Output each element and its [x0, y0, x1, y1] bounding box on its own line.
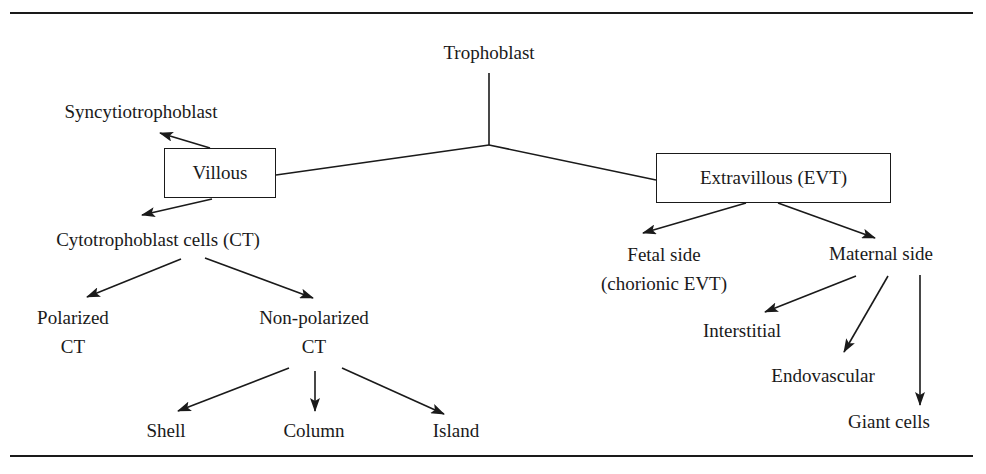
node-villous-box: Villous: [164, 148, 276, 198]
node-extravillous-label: Extravillous (EVT): [700, 167, 847, 189]
root-to-extravillous-line: [489, 145, 656, 180]
arrow-nonpolarized-to-island: [342, 368, 444, 414]
node-giant-cells: Giant cells: [848, 409, 930, 434]
node-interstitial: Interstitial: [703, 318, 781, 343]
node-fetal-line2: (chorionic EVT): [601, 269, 727, 298]
arrow-villous-to-syncytio: [160, 133, 210, 148]
node-syncytiotrophoblast: Syncytiotrophoblast: [64, 99, 217, 124]
node-endovascular: Endovascular: [771, 363, 874, 388]
node-maternal-side: Maternal side: [829, 241, 933, 266]
root-to-villous-line: [276, 145, 489, 175]
node-nonpolarized-ct: Non-polarized CT: [259, 303, 369, 361]
node-nonpolarized-line2: CT: [259, 332, 369, 361]
node-trophoblast: Trophoblast: [443, 40, 534, 65]
node-nonpolarized-line1: Non-polarized: [259, 303, 369, 332]
node-shell: Shell: [146, 418, 185, 443]
arrow-nonpolarized-to-shell: [178, 368, 289, 411]
node-fetal-line1: Fetal side: [601, 240, 727, 269]
node-fetal-side: Fetal side (chorionic EVT): [601, 240, 727, 298]
node-cytotrophoblast: Cytotrophoblast cells (CT): [56, 227, 260, 252]
arrow-maternal-to-endovascular: [844, 276, 888, 352]
arrow-villous-to-cyto: [142, 199, 212, 215]
node-villous-label: Villous: [193, 162, 248, 184]
arrow-cyto-to-nonpolarized: [205, 258, 313, 298]
node-island: Island: [433, 418, 479, 443]
node-polarized-ct: Polarized CT: [37, 303, 109, 361]
arrow-evt-to-maternal: [778, 203, 875, 238]
node-polarized-line2: CT: [37, 332, 109, 361]
arrow-maternal-to-interstitial: [765, 276, 856, 312]
node-polarized-line1: Polarized: [37, 303, 109, 332]
arrow-cyto-to-polarized: [87, 259, 181, 297]
node-column: Column: [283, 418, 344, 443]
arrow-evt-to-fetal: [643, 203, 746, 233]
node-extravillous-box: Extravillous (EVT): [656, 153, 891, 203]
